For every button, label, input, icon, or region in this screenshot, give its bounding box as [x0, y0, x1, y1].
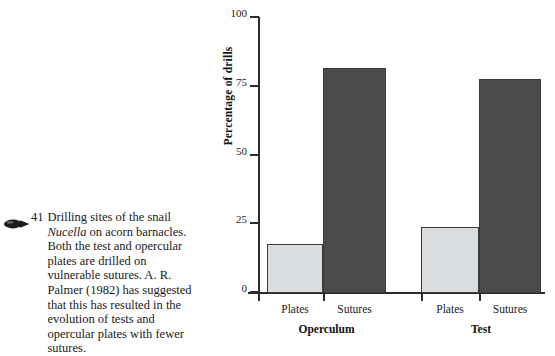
y-axis-title: Percentage of drills: [222, 26, 234, 166]
y-tick-75: 75: [250, 85, 259, 87]
x-label-operculum-sutures: Sutures: [323, 303, 386, 316]
caption-text-part1: Drilling sites of the snail: [48, 210, 172, 224]
x-group-label-operculum: Operculum: [267, 323, 386, 336]
x-tick-left: [258, 292, 260, 301]
caption-text-part2: on acorn barnacles. Both the test and op…: [48, 225, 192, 356]
x-group-label-test: Test: [421, 323, 541, 336]
bar-operculum-plates: [267, 244, 323, 294]
y-tick-label-0: 0: [242, 283, 248, 294]
caption-number: 41: [31, 210, 44, 225]
x-tick-mid-2: [421, 292, 423, 301]
y-tick-label-25: 25: [236, 214, 247, 225]
bar-test-plates: [421, 227, 479, 293]
y-tick-25: 25: [250, 222, 259, 224]
caption-text: Drilling sites of the snail Nucella on a…: [48, 210, 200, 356]
y-tick-label-100: 100: [231, 8, 248, 19]
y-tick-50: 50: [250, 154, 259, 156]
bar-operculum-sutures: [323, 68, 386, 294]
x-tick-mid-3: [479, 292, 481, 301]
figure-caption: 41 Drilling sites of the snail Nucella o…: [4, 210, 204, 356]
pointer-oval-icon: [4, 215, 30, 225]
x-label-test-sutures: Sutures: [479, 303, 541, 316]
y-tick-label-50: 50: [236, 146, 247, 157]
caption-species-name: Nucella: [48, 225, 87, 239]
y-tick-label-75: 75: [236, 77, 247, 88]
y-tick-100: 100: [250, 16, 259, 18]
bar-test-sutures: [479, 79, 541, 294]
x-label-operculum-plates: Plates: [267, 303, 323, 316]
x-label-test-plates: Plates: [421, 303, 479, 316]
x-tick-mid-1: [323, 292, 325, 301]
plot-area: 100 75 50 25 0: [259, 18, 544, 293]
